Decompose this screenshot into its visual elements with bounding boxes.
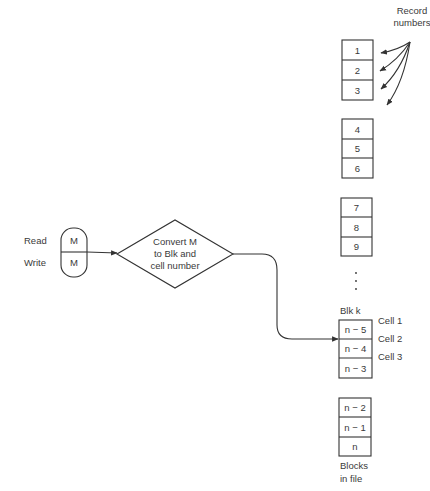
input-arrow	[87, 252, 117, 253]
blk-k-label: Blk k	[340, 305, 361, 316]
record-cell: n − 3	[345, 363, 366, 374]
diamond-line3: cell number	[150, 260, 199, 271]
record-cell: n − 2	[344, 402, 365, 413]
record-cell: 2	[355, 65, 360, 76]
record-cell: 7	[354, 202, 359, 213]
record-numbers-label-line2: numbers	[394, 17, 430, 28]
write-label: Write	[24, 257, 46, 268]
record-cell: n	[352, 441, 357, 452]
file-block-diagram: Record numbers 1 2 3 4 5 6 7 8 9	[0, 0, 430, 491]
block-k: n − 5 n − 4 n − 3	[339, 320, 372, 378]
convert-decision-diamond: Convert M to Blk and cell number	[117, 220, 233, 288]
read-label: Read	[24, 235, 47, 246]
record-cell: 8	[354, 222, 359, 233]
blocks-in-file-label-line1: Blocks	[340, 460, 368, 471]
ellipsis-dots	[355, 272, 357, 290]
record-cell: 1	[355, 45, 360, 56]
write-value: M	[70, 257, 78, 268]
cell-2-label: Cell 2	[378, 333, 402, 344]
diamond-line1: Convert M	[153, 236, 197, 247]
record-cell: n − 5	[345, 324, 366, 335]
blocks-in-file-label-line2: in file	[340, 473, 362, 484]
diamond-line2: to Blk and	[154, 248, 196, 259]
record-cell: n − 1	[344, 422, 365, 433]
cell-1-label: Cell 1	[378, 315, 402, 326]
connector-arrow	[233, 254, 338, 339]
record-cell: 6	[355, 163, 360, 174]
block-2: 4 5 6	[342, 119, 373, 178]
record-cell: n − 4	[345, 343, 366, 354]
record-cell: 9	[354, 241, 359, 252]
block-3: 7 8 9	[341, 198, 372, 256]
block-1: 1 2 3	[342, 40, 373, 100]
record-input-terminal: M M	[61, 228, 87, 277]
record-cell: 3	[355, 85, 360, 96]
block-last: n − 2 n − 1 n	[339, 398, 371, 456]
cell-3-label: Cell 3	[378, 351, 402, 362]
read-value: M	[70, 235, 78, 246]
record-numbers-label-line1: Record	[397, 5, 428, 16]
record-cell: 5	[355, 143, 360, 154]
record-cell: 4	[355, 124, 360, 135]
record-number-arrows	[380, 42, 410, 105]
